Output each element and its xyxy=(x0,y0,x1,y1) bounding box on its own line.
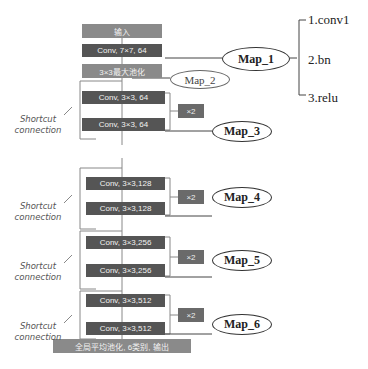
conv-block-512b: Conv, 3×3,512 xyxy=(86,322,165,335)
shortcut-label-4: Shortcutconnection xyxy=(8,321,68,343)
map1-component-conv1: 1.conv1 xyxy=(308,12,350,28)
conv-block-512a: Conv, 3×3,512 xyxy=(86,294,165,307)
conv-block-64a: Conv, 3×3, 64 xyxy=(82,91,165,104)
map-5-ellipse: Map_5 xyxy=(212,250,272,271)
shortcut-label-1: Shortcutconnection xyxy=(8,114,68,136)
conv-block-256b: Conv, 3×3,256 xyxy=(86,264,165,277)
shortcut-label-3: Shortcutconnection xyxy=(8,261,68,283)
repeat-badge-4: ×2 xyxy=(178,308,204,322)
map-3-ellipse: Map_3 xyxy=(212,121,272,142)
map-4-ellipse: Map_4 xyxy=(212,187,272,208)
conv1-block: Conv, 7×7, 64 xyxy=(82,44,162,57)
map-1-ellipse: Map_1 xyxy=(222,47,290,71)
conv-block-64b: Conv, 3×3, 64 xyxy=(82,118,165,131)
map1-component-relu: 3.relu xyxy=(308,90,338,106)
maxpool-block: 3×3最大池化 xyxy=(82,64,162,78)
repeat-badge-2: ×2 xyxy=(178,190,204,204)
map1-component-bn: 2.bn xyxy=(308,52,331,68)
repeat-badge-3: ×2 xyxy=(178,250,204,264)
input-block: 输入 xyxy=(82,24,162,38)
map-2-ellipse: Map_2 xyxy=(170,70,230,89)
conv-block-256a: Conv, 3×3,256 xyxy=(86,236,165,249)
output-block: 全局平均池化, 6类别, 输出 xyxy=(53,339,191,353)
repeat-badge-1: ×2 xyxy=(178,104,204,118)
map-6-ellipse: Map_6 xyxy=(212,314,272,335)
shortcut-label-2: Shortcutconnection xyxy=(8,201,68,223)
conv-block-128b: Conv, 3×3,128 xyxy=(86,202,165,215)
conv-block-128a: Conv, 3×3,128 xyxy=(86,177,165,190)
